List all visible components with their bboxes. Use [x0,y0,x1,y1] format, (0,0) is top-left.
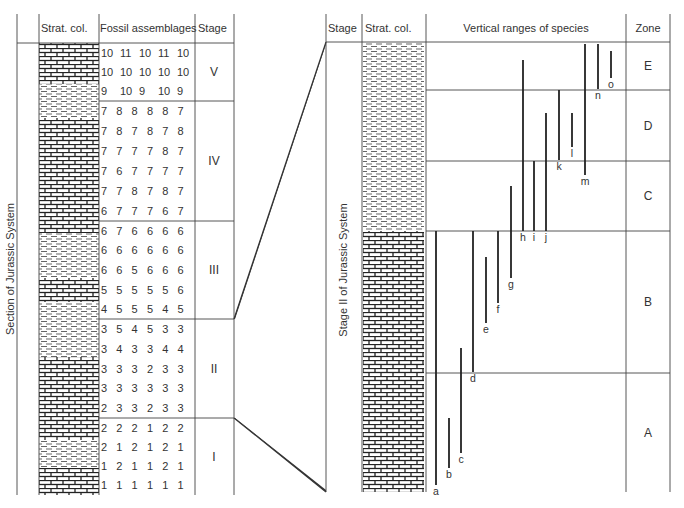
fossil-count: 4 [116,343,122,355]
species-label: m [581,175,590,187]
fossil-count: 7 [116,145,122,157]
fossil-count: 6 [101,264,107,276]
fossil-count: 1 [132,479,138,491]
fossil-count: 5 [132,303,138,315]
fossil-count: 7 [101,145,107,157]
fossil-count: 6 [101,225,107,237]
fossil-count: 5 [178,303,184,315]
fossil-count: 6 [116,264,122,276]
species-range-l: l [571,113,573,159]
fossil-count: 8 [147,105,153,117]
species-label: c [458,453,463,465]
zone-label-e: E [644,59,652,73]
fossil-count: 3 [178,382,184,394]
fossil-count: 1 [178,460,184,472]
species-range-h: h [520,60,526,243]
left-header-stage: Stage [198,22,227,34]
fossil-count: 2 [147,363,153,375]
species-label: e [483,323,489,335]
fossil-count: 1 [101,479,107,491]
fossil-count: 7 [162,125,168,137]
fossil-count: 6 [132,244,138,256]
limestone-bed [363,231,424,492]
fossil-count: 1 [147,460,153,472]
species-range-f: f [497,231,500,315]
species-label: g [508,278,514,290]
fossil-count: 10 [158,66,170,78]
fossil-count: 3 [132,382,138,394]
fossil-count: 8 [162,105,168,117]
fossil-count: 1 [116,479,122,491]
right-strat-column [363,42,424,492]
fossil-count: 6 [162,225,168,237]
fossil-count: 1 [178,441,184,453]
stage-label-ii: II [211,362,218,376]
fossil-count: 10 [101,47,113,59]
fossil-count: 10 [139,66,151,78]
fossil-count: 11 [120,47,131,59]
species-range-b: b [446,418,452,480]
fossil-count: 2 [162,460,168,472]
fossil-count: 3 [116,363,122,375]
fossil-count: 3 [101,363,107,375]
left-panel: Strat. col. Fossil assemblages Stage Sec… [4,14,234,495]
fossil-count: 7 [147,205,153,217]
fossil-count: 2 [162,441,168,453]
fossil-count: 9 [101,85,107,97]
fossil-count: 3 [162,323,168,335]
fossil-count: 10 [120,85,132,97]
fossil-count: 7 [147,145,153,157]
fossil-count: 7 [178,165,184,177]
fossil-count: 7 [101,185,107,197]
left-stage-labels: VIVIIIIII [208,65,219,464]
fossil-count: 6 [178,244,184,256]
fossil-count: 2 [132,441,138,453]
fossil-count: 3 [132,402,138,414]
right-side-label: Stage II of Jurassic System [337,203,349,336]
fossil-count: 10 [120,66,132,78]
fossil-count: 3 [147,382,153,394]
fossil-count: 7 [178,145,184,157]
fossil-count: 8 [132,105,138,117]
species-label: a [433,485,439,497]
stage-ii-expansion-connector [234,42,326,492]
fossil-count: 1 [147,479,153,491]
fossil-count: 8 [116,105,122,117]
fossil-count: 6 [178,225,184,237]
fossil-count: 5 [132,264,138,276]
zone-dividers [426,90,670,373]
species-range-g: g [508,186,514,290]
species-label: i [533,231,535,243]
species-range-o: o [608,51,614,90]
fossil-count: 8 [162,145,168,157]
fossil-count: 4 [162,343,168,355]
species-label: f [497,303,500,315]
left-header-fossil-assemblages: Fossil assemblages [100,22,197,34]
right-header-stage: Stage [328,22,357,34]
zone-label-a: A [644,426,652,440]
fossil-count: 1 [147,441,153,453]
fossil-count: 7 [132,165,138,177]
fossil-count: 10 [158,85,170,97]
jurassic-stratigraphy-diagram: Strat. col. Fossil assemblages Stage Sec… [0,0,684,508]
fossil-count: 5 [147,303,153,315]
fossil-count: 2 [162,422,168,434]
fossil-count: 4 [101,303,107,315]
left-header-strat-col: Strat. col. [41,22,87,34]
species-range-a: a [433,231,439,497]
fossil-count: 1 [178,479,184,491]
fossil-count: 3 [101,382,107,394]
fossil-count: 6 [147,225,153,237]
fossil-count: 5 [116,284,122,296]
fossil-count: 10 [101,66,113,78]
species-label: d [470,372,476,384]
fossil-count: 3 [162,382,168,394]
shale-bed [39,233,99,278]
species-label: j [544,231,547,243]
fossil-count: 1 [101,460,107,472]
species-label: h [520,231,526,243]
species-label: k [556,160,562,172]
fossil-count: 7 [116,225,122,237]
fossil-count: 5 [162,284,168,296]
fossil-count: 8 [162,185,168,197]
